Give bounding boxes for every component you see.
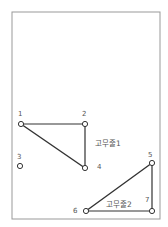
peg-4: [82, 165, 87, 170]
peg-1: [18, 121, 23, 126]
peg-7: [149, 208, 154, 213]
pegboard-diagram: 1 2 3 4 5 6 7 고무줄1 고무줄2: [0, 0, 168, 227]
peg-5: [149, 160, 154, 165]
peg-label-1: 1: [18, 110, 22, 118]
peg-label-7: 7: [145, 196, 149, 204]
peg-label-3: 3: [17, 153, 21, 161]
peg-2: [82, 121, 87, 126]
peg-label-5: 5: [148, 151, 152, 159]
peg-label-2: 2: [82, 110, 86, 118]
peg-label-4: 4: [97, 163, 102, 171]
peg-label-6: 6: [73, 207, 78, 215]
peg-6: [83, 208, 88, 213]
rubber-band-1-label: 고무줄1: [95, 139, 121, 148]
peg-3: [17, 163, 22, 168]
rubber-band-2-label: 고무줄2: [106, 200, 132, 209]
